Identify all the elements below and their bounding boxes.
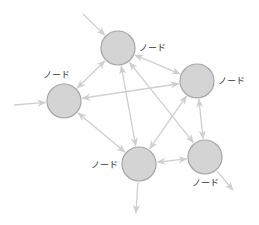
- node-circle[interactable]: [47, 84, 81, 118]
- node-label: ノード: [192, 178, 219, 188]
- edge-right-to-bottom: [150, 96, 187, 149]
- edge-bottom-to-bottom-right: [157, 159, 186, 162]
- edge-top-to-bottom: [121, 66, 135, 146]
- edge-right-to-left: [82, 84, 178, 98]
- network-diagram: ノードノードノードノードノード: [0, 0, 259, 225]
- node-circle[interactable]: [180, 64, 214, 98]
- edge-top-to-right: [135, 55, 180, 74]
- node-label: ノード: [91, 160, 118, 170]
- node-label: ノード: [43, 70, 70, 80]
- node-top[interactable]: ノード: [101, 31, 166, 65]
- edge-right-to-bottom-right: [199, 99, 203, 138]
- edge-top-to-left: [77, 61, 105, 88]
- edge-external-to-top: [83, 14, 105, 35]
- node-left[interactable]: ノード: [43, 70, 82, 118]
- edge-left-to-bottom: [78, 113, 125, 152]
- node-circle[interactable]: [188, 140, 222, 174]
- node-label: ノード: [218, 76, 245, 86]
- node-right[interactable]: ノード: [180, 64, 245, 98]
- edge-external-to-left: [14, 102, 46, 105]
- edge-bottom-to-external: [136, 182, 138, 213]
- nodes-layer: ノードノードノードノードノード: [43, 31, 246, 188]
- node-circle[interactable]: [101, 31, 135, 65]
- edge-bottom-right-to-external: [217, 171, 233, 190]
- node-bottom-right[interactable]: ノード: [188, 140, 222, 188]
- node-label: ノード: [139, 43, 166, 53]
- node-bottom[interactable]: ノード: [91, 147, 156, 181]
- node-circle[interactable]: [122, 147, 156, 181]
